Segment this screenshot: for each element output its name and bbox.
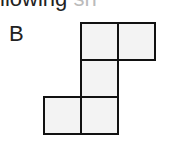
net-cell (80, 96, 119, 135)
question-text-faded: sh (67, 0, 96, 11)
question-text: llowing (0, 0, 67, 11)
net-cell (80, 22, 119, 61)
net-cell (43, 96, 82, 135)
net-cell (80, 59, 119, 98)
option-label: B (9, 21, 24, 47)
net-cell (117, 22, 156, 61)
question-text-partial: llowing sh (0, 0, 97, 12)
